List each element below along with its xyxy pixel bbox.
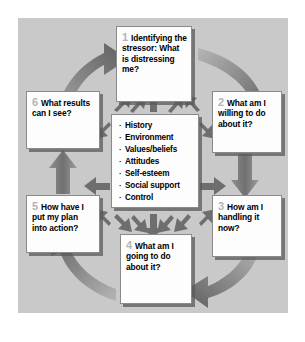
factor-label: Environment	[125, 133, 173, 142]
node-4[interactable]: 4What am I going to do about it?	[120, 234, 192, 304]
node-2-label: What am I willing to do about it?	[218, 98, 266, 129]
factor-label: Attitudes	[125, 157, 159, 166]
node-1-number: 1	[122, 31, 128, 43]
node-6-number: 6	[32, 96, 38, 108]
list-item: ·Self-esteem	[119, 168, 194, 180]
node-3-label: How am I handling it now?	[218, 202, 263, 233]
factor-list: ·History ·Environment ·Values/beliefs ·A…	[119, 120, 194, 204]
list-item: ·Social support	[119, 180, 194, 192]
node-5-label: How have I put my plan into action?	[32, 202, 84, 233]
node-3-number: 3	[218, 200, 224, 212]
node-1-label: Identifying the stressor: What is distre…	[122, 33, 187, 75]
node-6-label: What results can I see?	[32, 98, 90, 119]
diagram-panel: 1Identifying the stressor: What is distr…	[18, 18, 288, 313]
factor-label: Social support	[125, 181, 180, 190]
list-item: ·Environment	[119, 132, 194, 144]
list-item: ·Attitudes	[119, 156, 194, 168]
factor-label: Control	[125, 193, 153, 202]
node-3[interactable]: 3How am I handling it now?	[212, 195, 282, 257]
node-2[interactable]: 2What am I willing to do about it?	[212, 91, 282, 153]
list-item: ·Control	[119, 192, 194, 204]
factor-label: Values/beliefs	[125, 145, 177, 154]
arrow-2-to-3	[231, 154, 259, 198]
node-2-number: 2	[218, 96, 224, 108]
diagram-root: 1Identifying the stressor: What is distr…	[0, 0, 305, 342]
node-center-factors[interactable]: ·History ·Environment ·Values/beliefs ·A…	[111, 114, 199, 208]
list-item: ·Values/beliefs	[119, 144, 194, 156]
node-4-number: 4	[126, 239, 132, 251]
node-6[interactable]: 6What results can I see?	[26, 91, 100, 149]
node-5-number: 5	[32, 200, 38, 212]
arrow-5-to-6	[49, 150, 77, 194]
node-5[interactable]: 5How have I put my plan into action?	[26, 195, 100, 253]
list-item: ·History	[119, 120, 194, 132]
node-1[interactable]: 1Identifying the stressor: What is distr…	[116, 26, 192, 102]
node-4-label: What am I going to do about it?	[126, 241, 174, 272]
factor-label: History	[125, 121, 152, 130]
factor-label: Self-esteem	[125, 169, 169, 178]
